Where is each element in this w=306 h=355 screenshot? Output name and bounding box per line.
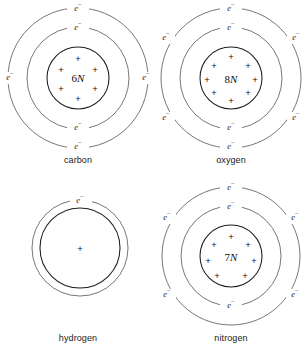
nitrogen-proton: + <box>228 231 234 242</box>
carbon-proton: + <box>92 64 98 75</box>
nitrogen-proton: + <box>205 255 211 266</box>
caption-hydrogen: hydrogen <box>3 333 153 343</box>
oxygen-proton: + <box>211 87 217 98</box>
caption-carbon: carbon <box>3 155 153 165</box>
nitrogen-svg: + + + + + + + 7N e− e− e− e− e− e− e− <box>156 182 306 330</box>
carbon-proton: + <box>75 53 81 64</box>
oxygen-proton: + <box>245 87 251 98</box>
carbon-svg: + + + + + + 6N e− e− e− e− e− e− <box>3 3 153 153</box>
oxygen-nucleus-label: 8N <box>225 73 239 85</box>
oxygen-proton: + <box>204 74 210 85</box>
nitrogen-proton: + <box>214 270 220 281</box>
atom-diagram-hydrogen: + e− <box>28 192 132 304</box>
oxygen-proton: + <box>245 60 251 71</box>
carbon-proton: + <box>92 83 98 94</box>
oxygen-proton: + <box>228 95 234 106</box>
nitrogen-proton: + <box>242 270 248 281</box>
carbon-proton: + <box>58 83 64 94</box>
nitrogen-proton: + <box>211 239 217 250</box>
atom-diagram-oxygen: + + + + + + + + 8N e− e− e− e− e− e− e− … <box>156 3 306 153</box>
caption-nitrogen: nitrogen <box>156 333 306 343</box>
oxygen-proton: + <box>211 60 217 71</box>
oxygen-svg: + + + + + + + + 8N e− e− e− e− e− e− e− … <box>156 3 306 153</box>
atom-diagram-nitrogen: + + + + + + + 7N e− e− e− e− e− e− e− <box>156 182 306 330</box>
nitrogen-proton: + <box>245 239 251 250</box>
oxygen-proton: + <box>252 74 258 85</box>
atom-diagram-carbon: + + + + + + 6N e− e− e− e− e− e− <box>3 3 153 153</box>
carbon-proton: + <box>58 64 64 75</box>
atom-diagram-figure: + + + + + + 6N e− e− e− e− e− e− carbon <box>0 0 306 355</box>
nitrogen-nucleus-label: 7N <box>225 251 239 263</box>
oxygen-proton: + <box>228 51 234 62</box>
hydrogen-proton: + <box>77 243 83 254</box>
nitrogen-proton: + <box>251 255 257 266</box>
hydrogen-svg: + e− <box>28 192 132 304</box>
caption-oxygen: oxygen <box>156 155 306 165</box>
carbon-nucleus-label: 6N <box>72 72 86 84</box>
carbon-proton: + <box>75 93 81 104</box>
